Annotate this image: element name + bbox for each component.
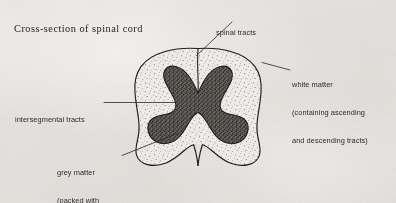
ventral-median-fissure — [194, 145, 203, 166]
label-intersegmental-tracts-line-1: intersegmental tracts — [15, 115, 85, 124]
dorsal-median-sulcus — [198, 49, 199, 94]
label-spinal-tracts-line-1: spinal tracts — [216, 28, 256, 37]
label-white-matter-line-1: white matter — [292, 80, 368, 89]
figure-page: Cross-section of spinal cord spinal trac… — [0, 0, 396, 203]
label-white-matter-line-3: and descending tracts) — [292, 136, 368, 145]
label-white-matter: white matter (containing ascending and d… — [292, 62, 368, 163]
label-grey-matter-line-2: (packed with — [57, 196, 116, 203]
label-grey-matter: grey matter (packed with motor neurons a… — [57, 150, 116, 203]
label-spinal-tracts: spinal tracts — [216, 10, 256, 56]
leader-white-matter — [262, 63, 290, 71]
label-white-matter-line-2: (containing ascending — [292, 108, 368, 117]
label-grey-matter-line-1: grey matter — [57, 168, 116, 177]
page-title: Cross-section of spinal cord — [14, 23, 143, 35]
label-intersegmental-tracts: intersegmental tracts — [15, 97, 85, 143]
